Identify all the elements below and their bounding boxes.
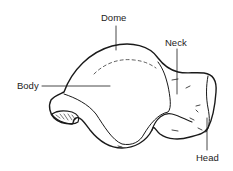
head-contour [206,76,209,132]
label-neck: Neck [165,38,187,48]
label-body: Body [17,81,39,91]
dome-dashes [94,60,156,74]
label-head: Head [196,153,219,163]
label-dome: Dome [101,13,126,23]
body-contour [64,62,170,145]
groove-outline [52,111,79,124]
groove-hatching [56,114,75,120]
talus-diagram: Dome Neck Body Head [0,0,233,171]
neck-bulge [152,114,192,130]
